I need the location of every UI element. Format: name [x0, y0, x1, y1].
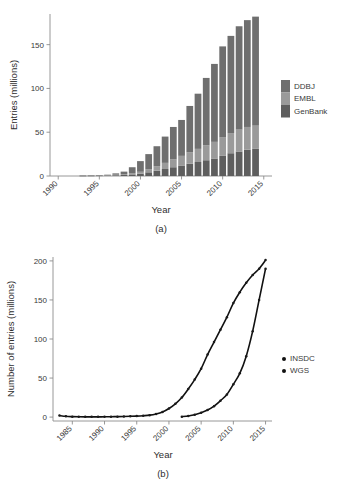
panel-a-bar-segment [145, 154, 152, 169]
panel-a-bar-segment [203, 145, 210, 160]
panel-a-y-tick-label: 0 [40, 172, 45, 181]
panel-a-bar-segment [186, 164, 193, 176]
panel-a-x-tick-label: 2005 [164, 179, 183, 198]
panel-a-bar-segment [178, 120, 185, 156]
panel-b-series-point [193, 414, 196, 417]
panel-b-series-point [142, 414, 145, 417]
panel-b-series-point [206, 409, 209, 412]
panel-a-bar-segment [228, 36, 235, 133]
panel-a-bar-segment [178, 156, 185, 166]
panel-a-legend-swatch [281, 105, 290, 118]
panel-b-series-point [258, 267, 261, 270]
panel-a-bar-segment [195, 94, 202, 149]
panel-a-bar-segment [137, 172, 144, 174]
panel-a-bar-segment [162, 137, 169, 163]
panel-b-series-point [193, 378, 196, 381]
panel-a-bar-segment [121, 175, 128, 176]
panel-b-caption: (b) [157, 468, 169, 479]
panel-a-bar-segment [236, 26, 243, 129]
false [282, 357, 286, 361]
panel-b-series-point [187, 388, 190, 391]
panel-a-bar-segment [219, 46, 226, 137]
panel-b-x-tick-label: 2015 [248, 424, 267, 443]
panel-b-series-point [258, 299, 261, 302]
panel-b-y-tick-label: 150 [34, 296, 48, 305]
panel-b-series-point [226, 393, 229, 396]
panel-b-series-point [232, 302, 235, 305]
panel-a-y-axis-title: Entries (millions) [8, 60, 19, 130]
panel-b-series-point [232, 383, 235, 386]
panel-a-bar-segment [178, 165, 185, 176]
panel-a-bar-segment [154, 166, 161, 171]
panel-a-bar-segment [137, 174, 144, 176]
panel-b-series-point [65, 415, 68, 418]
panel-b-series-line [59, 260, 265, 417]
panel-b-series-point [187, 415, 190, 418]
panel-a-bar-segment [129, 173, 136, 174]
panel-b-series-point [129, 415, 132, 418]
panel-b-series-point [97, 416, 100, 419]
panel-b-series-point [110, 415, 113, 418]
panel-b-y-tick-label: 0 [43, 413, 48, 422]
panel-b-series-point [116, 415, 119, 418]
panel-b-series-point [90, 416, 93, 419]
panel-a-bar-segment [211, 158, 218, 176]
panel-a-bars [80, 17, 259, 177]
panel-a-bar-segment [236, 151, 243, 176]
panel-a-caption: (a) [155, 223, 167, 234]
panel-a-bar-segment [203, 160, 210, 176]
panel-b-series-point [200, 412, 203, 415]
panel-a-bar-segment [112, 175, 119, 176]
panel-a-bar-segment [112, 173, 119, 174]
panel-b-series-point [135, 415, 138, 418]
panel-b-series-point [123, 415, 126, 418]
panel-a-stacked-bar-chart: 050100150 199019952000200520102015 DDBJE… [0, 0, 337, 243]
panel-b-series-point [84, 416, 87, 419]
panel-a-bar-segment [195, 162, 202, 176]
false [282, 369, 286, 373]
panel-a-bar-segment [104, 175, 111, 176]
panel-a-legend-label: GenBank [294, 107, 328, 116]
panel-a-bar-segment [129, 174, 136, 176]
panel-b-series-point [103, 416, 106, 419]
panel-a-bar-segment [162, 163, 169, 169]
panel-b-series-point [245, 355, 248, 358]
panel-a-x-tick-label: 2000 [123, 179, 142, 198]
panel-a-x-ticks: 199019952000200520102015 [41, 176, 266, 198]
panel-a-bar-segment [228, 153, 235, 176]
panel-a-bar-segment [154, 146, 161, 166]
panel-b-series-point [219, 328, 222, 331]
panel-a-bar-segment [244, 150, 251, 176]
panel-a-bar-segment [203, 78, 210, 145]
panel-a-bar-segment [252, 149, 259, 176]
panel-b-series-point [174, 403, 177, 406]
panel-b-series-point [181, 415, 184, 418]
panel-a-bar-segment [129, 167, 136, 173]
panel-b-series-point [71, 415, 74, 418]
panel-a-bar-segment [211, 142, 218, 159]
panel-b-y-tick-label: 100 [34, 335, 48, 344]
panel-b-y-tick-label: 50 [38, 374, 47, 383]
panel-a-legend-swatch [281, 93, 290, 106]
panel-a-bar-segment [145, 172, 152, 176]
panel-a-bar-segment [219, 156, 226, 176]
panel-a-x-axis-title: Year [151, 204, 170, 215]
panel-a-bar-segment [145, 169, 152, 172]
panel-a-bar-segment [170, 127, 177, 159]
panel-a-bar-segment [195, 149, 202, 162]
panel-a-bar-segment [170, 167, 177, 176]
panel-b-series-point [181, 396, 184, 399]
panel-a-bar-segment [186, 152, 193, 163]
panel-a-bar-segment [170, 159, 177, 167]
panel-b-series-line [182, 269, 266, 417]
panel-b-series-point [58, 414, 61, 417]
panel-b-legend-label: WGS [290, 366, 309, 375]
panel-b-series-point [155, 413, 158, 416]
panel-a-y-tick-label: 100 [31, 84, 45, 93]
panel-a-y-ticks: 050100150 [31, 41, 50, 181]
panel-a-bar-segment [211, 64, 218, 142]
panel-b-series-point [226, 316, 229, 319]
panel-a-legend-swatch [281, 80, 290, 93]
panel-b-series-point [206, 353, 209, 356]
panel-b-series-point [168, 407, 171, 410]
